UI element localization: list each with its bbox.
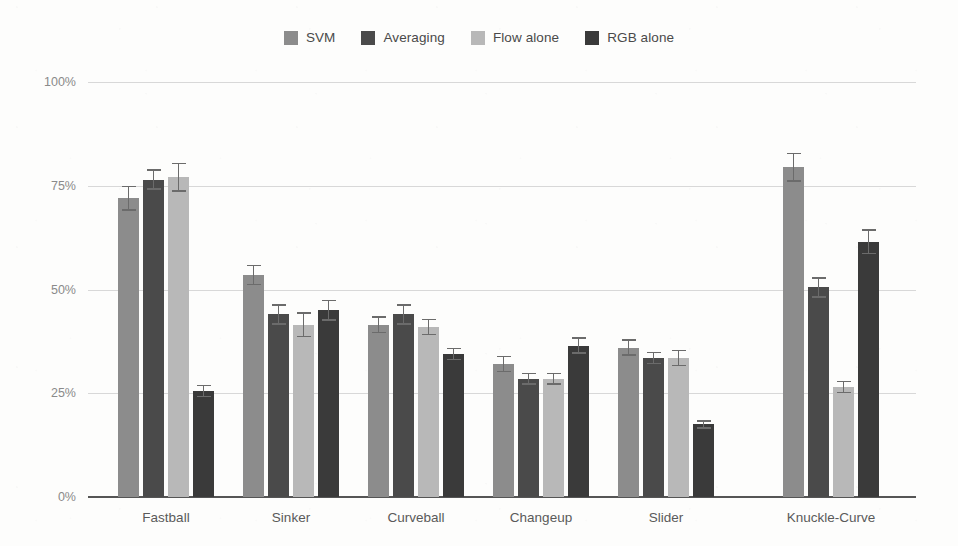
bar-fastball-flow-alone [168, 177, 189, 497]
bar-curveball-flow-alone [418, 327, 439, 497]
bar-changeup-svm [493, 364, 514, 497]
error-bar-cap-upper [147, 169, 161, 171]
bar-slider-svm [618, 348, 639, 497]
error-bar-cap-upper [422, 319, 436, 321]
y-axis-tick-label: 75% [16, 179, 76, 193]
error-bar-cap-upper [647, 352, 661, 354]
error-bar-cap-upper [172, 163, 186, 165]
bar-slider-rgb-alone [693, 424, 714, 497]
error-bar-cap-upper [837, 381, 851, 383]
bar-curveball-averaging [393, 314, 414, 497]
bar-sinker-rgb-alone [318, 310, 339, 497]
error-bar-cap-upper [697, 420, 711, 422]
y-axis-tick-label: 50% [16, 283, 76, 297]
x-axis-category-label-curveball: Curveball [387, 510, 444, 525]
y-axis-tick-label: 100% [16, 75, 76, 89]
bar-sinker-svm [243, 275, 264, 497]
x-axis-category-label-slider: Slider [649, 510, 684, 525]
bar-fastball-svm [118, 198, 139, 497]
bar-changeup-flow-alone [543, 379, 564, 497]
bar-sinker-flow-alone [293, 325, 314, 497]
bar-changeup-averaging [518, 379, 539, 497]
y-axis-tick-label: 25% [16, 386, 76, 400]
chart-screenshot: SVMAveragingFlow aloneRGB alone 0%25%50%… [0, 0, 958, 546]
error-bar-cap-upper [497, 356, 511, 358]
bar-fastball-rgb-alone [193, 391, 214, 497]
bar-sinker-averaging [268, 314, 289, 497]
error-bar-cap-upper [247, 265, 261, 267]
y-axis-tick-label: 0% [16, 490, 76, 504]
bar-curveball-svm [368, 325, 389, 497]
error-bar-cap-upper [297, 312, 311, 314]
bar-changeup-rgb-alone [568, 346, 589, 497]
bar-slider-averaging [643, 358, 664, 497]
x-axis-category-label-knuckle-curve: Knuckle-Curve [787, 510, 876, 525]
bar-knuckle-curve-rgb-alone [858, 242, 879, 497]
x-axis-category-label-changeup: Changeup [510, 510, 572, 525]
error-bar-cap-upper [862, 229, 876, 231]
error-bar-cap-upper [372, 316, 386, 318]
error-bar-cap-upper [397, 304, 411, 306]
gridline-100% [88, 82, 916, 83]
error-bar-cap-upper [672, 350, 686, 352]
error-bar-cap-upper [322, 300, 336, 302]
error-bar-cap-upper [787, 153, 801, 155]
x-axis-category-label-sinker: Sinker [272, 510, 310, 525]
bar-knuckle-curve-svm [783, 167, 804, 497]
error-bar-cap-upper [447, 348, 461, 350]
error-bar-cap-upper [572, 337, 586, 339]
x-axis-category-label-fastball: Fastball [142, 510, 189, 525]
bar-slider-flow-alone [668, 358, 689, 497]
error-bar-cap-upper [812, 277, 826, 279]
bar-knuckle-curve-flow-alone [833, 387, 854, 497]
chart-plot-area: 0%25%50%75%100%FastballSinkerCurveballCh… [0, 0, 958, 546]
error-bar-cap-upper [197, 385, 211, 387]
bar-knuckle-curve-averaging [808, 287, 829, 497]
error-bar-cap-upper [522, 373, 536, 375]
error-bar-cap-upper [622, 339, 636, 341]
bar-curveball-rgb-alone [443, 354, 464, 497]
bar-fastball-averaging [143, 180, 164, 497]
error-bar-cap-upper [547, 373, 561, 375]
error-bar-cap-upper [272, 304, 286, 306]
